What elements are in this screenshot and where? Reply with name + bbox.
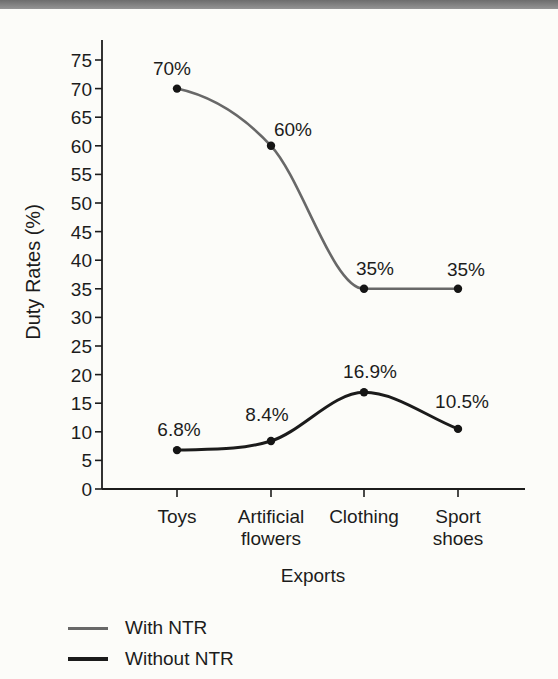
- without-ntr-line-swatch: [68, 657, 108, 661]
- y-tick-label-60: 60: [71, 136, 92, 157]
- y-tick-label-25: 25: [71, 336, 92, 357]
- without-ntr-point-toys: [173, 446, 181, 454]
- with-ntr-line: [177, 89, 458, 289]
- y-tick-label-35: 35: [71, 279, 92, 300]
- category-label-clothing: Clothing: [329, 506, 399, 527]
- y-tick-label-65: 65: [71, 107, 92, 128]
- with-ntr-point-label-sport-shoes: 35%: [447, 259, 485, 280]
- without-ntr-point-label-clothing: 16.9%: [343, 361, 397, 382]
- y-tick-label-55: 55: [71, 164, 92, 185]
- legend-label-with-ntr: With NTR: [125, 617, 207, 639]
- y-tick-label-15: 15: [71, 393, 92, 414]
- y-axis-title: Duty Rates (%): [22, 204, 44, 340]
- duty-rates-chart: 051015202530354045505560657075ToysArtifi…: [0, 0, 558, 610]
- y-tick-label-40: 40: [71, 250, 92, 271]
- without-ntr-line: [177, 392, 458, 450]
- legend-item-without-ntr: Without NTR: [68, 648, 234, 670]
- category-label-sport-shoes: shoes: [433, 528, 484, 549]
- category-label-artificial-flowers: Artificial: [238, 506, 305, 527]
- with-ntr-point-artificial-flowers: [267, 142, 275, 150]
- with-ntr-point-toys: [173, 84, 181, 92]
- with-ntr-point-clothing: [360, 285, 368, 293]
- y-tick-label-5: 5: [81, 450, 92, 471]
- without-ntr-point-artificial-flowers: [267, 437, 275, 445]
- y-tick-label-10: 10: [71, 422, 92, 443]
- without-ntr-point-label-artificial-flowers: 8.4%: [245, 404, 288, 425]
- y-tick-label-75: 75: [71, 50, 92, 71]
- with-ntr-line-swatch: [68, 627, 108, 630]
- category-label-sport-shoes: Sport: [435, 506, 481, 527]
- chart-legend: With NTR Without NTR: [68, 617, 234, 670]
- with-ntr-point-label-artificial-flowers: 60%: [274, 119, 312, 140]
- legend-label-without-ntr: Without NTR: [125, 648, 234, 670]
- x-axis-title: Exports: [281, 565, 345, 586]
- y-tick-label-0: 0: [81, 479, 92, 500]
- without-ntr-point-label-sport-shoes: 10.5%: [435, 391, 489, 412]
- category-label-artificial-flowers: flowers: [241, 528, 301, 549]
- y-tick-label-50: 50: [71, 193, 92, 214]
- with-ntr-point-label-toys: 70%: [153, 58, 191, 79]
- with-ntr-point-sport-shoes: [454, 285, 462, 293]
- y-tick-label-70: 70: [71, 79, 92, 100]
- with-ntr-point-label-clothing: 35%: [356, 258, 394, 279]
- without-ntr-point-label-toys: 6.8%: [157, 419, 200, 440]
- y-tick-label-45: 45: [71, 222, 92, 243]
- without-ntr-point-sport-shoes: [454, 425, 462, 433]
- without-ntr-point-clothing: [360, 388, 368, 396]
- y-tick-label-30: 30: [71, 307, 92, 328]
- category-label-toys: Toys: [157, 506, 196, 527]
- y-tick-label-20: 20: [71, 365, 92, 386]
- legend-item-with-ntr: With NTR: [68, 617, 234, 639]
